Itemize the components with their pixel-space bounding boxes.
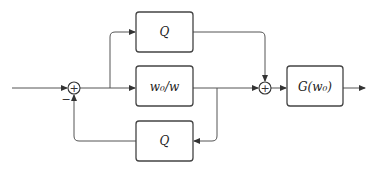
block-diagram: Q w₀/w Q G(w₀) + − +	[0, 0, 377, 177]
block-g: G(w₀)	[287, 66, 343, 106]
block-q-bottom-label: Q	[160, 134, 170, 148]
feedback-line	[74, 95, 136, 141]
block-q-bottom: Q	[136, 121, 193, 161]
block-q-top: Q	[136, 12, 193, 52]
summing-junction-1: + −	[61, 82, 80, 106]
block-g-label: G(w₀)	[298, 80, 332, 94]
branch-to-top-q-line	[110, 32, 135, 88]
block-w-ratio-label: w₀/w	[150, 80, 180, 94]
block-w-ratio: w₀/w	[136, 66, 193, 106]
block-q-top-label: Q	[160, 25, 170, 39]
branch-to-bottom-q-line	[194, 88, 217, 141]
sum2-plus-sign: +	[260, 82, 269, 95]
sum1-plus-sign: +	[69, 82, 78, 95]
sum1-minus-sign: −	[61, 93, 70, 106]
summing-junction-2: +	[259, 82, 271, 95]
top-q-to-sum2-line	[193, 32, 265, 81]
